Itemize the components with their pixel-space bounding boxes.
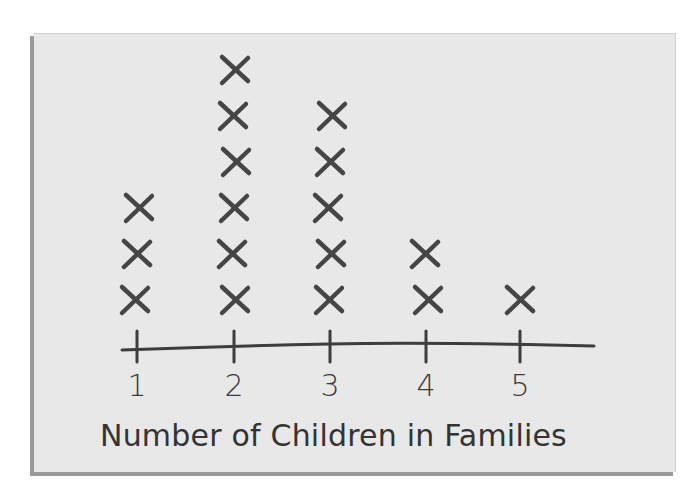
x-mark-icon (219, 241, 245, 267)
x-mark-icon (315, 195, 341, 221)
x-mark-icon (318, 241, 344, 267)
x-tick-label: 4 (416, 368, 435, 403)
x-tick-label: 2 (224, 368, 243, 403)
x-tick-label: 1 (127, 368, 146, 403)
x-mark-icon (126, 195, 152, 221)
x-mark-icon (319, 103, 345, 129)
x-mark-icon (220, 103, 246, 129)
x-tick-label: 5 (510, 368, 529, 403)
x-mark-icon (415, 287, 441, 313)
x-mark-icon (124, 241, 150, 267)
x-axis-label: Number of Children in Families (100, 418, 567, 453)
x-mark-icon (223, 149, 249, 175)
x-tick-label: 3 (320, 368, 339, 403)
x-mark-icon (222, 57, 248, 83)
x-axis-line (122, 343, 594, 350)
x-mark-icon (221, 195, 247, 221)
x-mark-icon (412, 241, 438, 267)
x-mark-icon (122, 287, 148, 313)
x-mark-icon (222, 287, 248, 313)
x-mark-icon (507, 287, 533, 313)
x-mark-icon (316, 287, 342, 313)
x-mark-icon (317, 149, 343, 175)
